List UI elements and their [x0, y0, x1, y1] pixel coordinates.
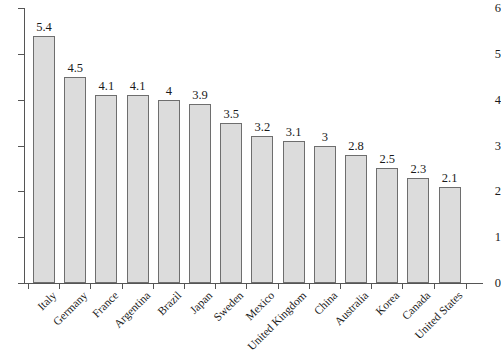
bar — [95, 95, 117, 283]
y-tick-label: 6 — [485, 2, 501, 14]
y-tick-label: 0 — [485, 277, 501, 289]
x-tick-mark — [246, 284, 247, 289]
x-tick-mark — [59, 284, 60, 289]
x-tick-mark — [340, 284, 341, 289]
bar-chart: 0123456 5.44.54.14.143.93.53.23.132.82.5… — [0, 0, 501, 362]
x-tick-mark — [466, 284, 467, 289]
bar — [33, 36, 55, 284]
y-axis-line — [24, 8, 25, 284]
bar-value-label: 2.8 — [336, 140, 376, 153]
x-tick-mark — [402, 284, 403, 289]
bar — [220, 123, 242, 283]
y-tick-label: 2 — [485, 185, 501, 197]
x-tick-mark — [153, 284, 154, 289]
y-tick-mark — [18, 54, 24, 55]
bar — [158, 100, 180, 283]
y-tick-label: 3 — [485, 140, 501, 152]
bar-value-label: 5.4 — [24, 21, 64, 34]
y-tick-mark — [18, 146, 24, 147]
bar — [189, 104, 211, 283]
x-axis-line — [24, 283, 483, 284]
y-tick-mark — [18, 237, 24, 238]
bar — [439, 187, 461, 283]
x-tick-mark — [371, 284, 372, 289]
bar-value-label: 4.5 — [55, 62, 95, 75]
bar — [251, 136, 273, 283]
y-tick-mark — [18, 8, 24, 9]
x-tick-mark — [28, 284, 29, 289]
bar — [64, 77, 86, 283]
y-tick-label: 5 — [485, 48, 501, 60]
bar — [376, 168, 398, 283]
x-tick-mark — [309, 284, 310, 289]
x-tick-mark — [90, 284, 91, 289]
y-tick-label: 1 — [485, 231, 501, 243]
y-tick-label: 4 — [485, 94, 501, 106]
y-tick-mark — [18, 191, 24, 192]
bar — [314, 146, 336, 284]
x-tick-mark — [215, 284, 216, 289]
y-tick-mark — [18, 283, 24, 284]
x-tick-mark — [434, 284, 435, 289]
bar — [407, 178, 429, 283]
bar-value-label: 2.1 — [430, 172, 470, 185]
bar-value-label: 3.9 — [180, 89, 220, 102]
x-tick-mark — [184, 284, 185, 289]
bar — [127, 95, 149, 283]
bar — [283, 141, 305, 283]
bar-value-label: 3.5 — [211, 108, 251, 121]
y-tick-mark — [18, 100, 24, 101]
x-tick-mark — [278, 284, 279, 289]
bar — [345, 155, 367, 283]
x-tick-mark — [122, 284, 123, 289]
